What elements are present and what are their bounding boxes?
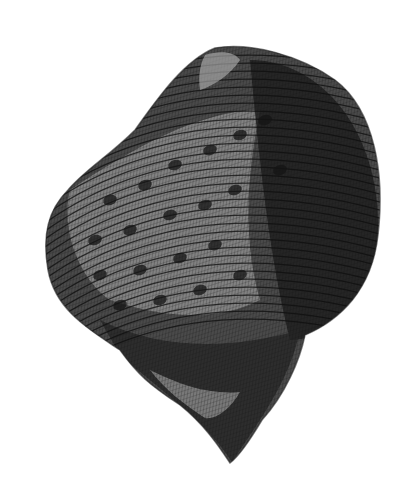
shell-body: [0, 0, 420, 503]
shell-illustration: [0, 0, 420, 503]
